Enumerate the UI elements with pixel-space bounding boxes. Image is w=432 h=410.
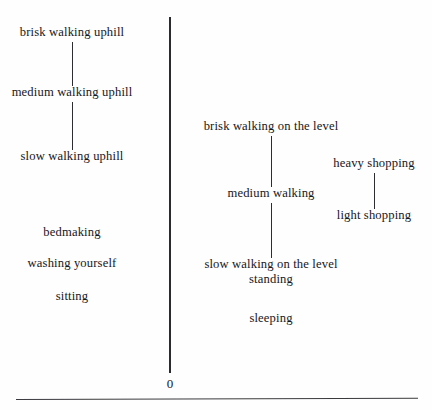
activity-label-slow-walking-on-the-level: slow walking on the level bbox=[204, 257, 337, 272]
axis-vertical-spine bbox=[169, 17, 171, 373]
activity-label-heavy-shopping: heavy shopping bbox=[333, 156, 415, 171]
activity-label-brisk-walking-on-the-level: brisk walking on the level bbox=[204, 119, 339, 134]
level-connector-2 bbox=[271, 203, 272, 258]
shopping-connector bbox=[374, 173, 375, 209]
level-connector-1 bbox=[271, 136, 272, 187]
activity-label-sitting: sitting bbox=[56, 289, 89, 304]
activity-energy-scale-figure: 0 brisk walking uphill medium walking up… bbox=[0, 0, 432, 410]
activity-label-slow-walking-uphill: slow walking uphill bbox=[21, 149, 124, 164]
activity-label-light-shopping: light shopping bbox=[337, 208, 412, 223]
activity-label-medium-walking-uphill: medium walking uphill bbox=[12, 85, 133, 100]
bottom-divider-rule bbox=[16, 398, 418, 401]
activity-label-washing-yourself: washing yourself bbox=[28, 256, 117, 271]
axis-zero-label: 0 bbox=[148, 376, 192, 392]
uphill-connector-2 bbox=[72, 102, 73, 150]
uphill-connector-1 bbox=[72, 42, 73, 86]
activity-label-medium-walking: medium walking bbox=[227, 186, 314, 201]
activity-label-bedmaking: bedmaking bbox=[43, 225, 100, 240]
activity-label-brisk-walking-uphill: brisk walking uphill bbox=[20, 25, 124, 40]
activity-label-standing: standing bbox=[249, 272, 293, 287]
activity-label-sleeping: sleeping bbox=[249, 311, 292, 326]
